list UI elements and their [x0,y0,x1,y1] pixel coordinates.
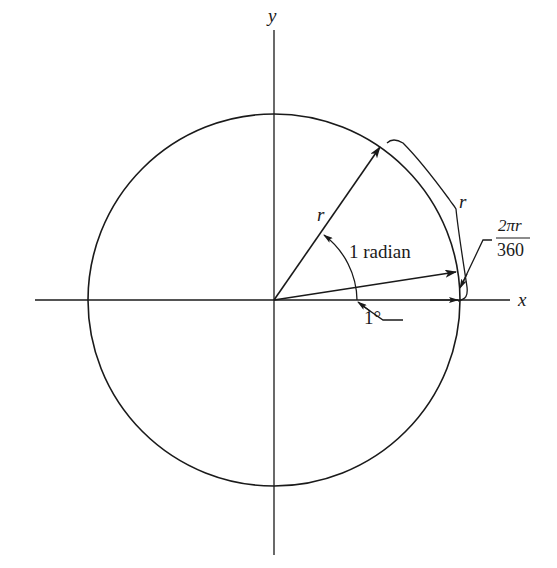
radius-vector-1-radian [274,147,380,300]
x-axis-label: x [517,289,527,310]
radian-diagram: y x r 1 radian 1° r 2πr 360 [0,0,557,568]
degree-angle-label: 1° [364,307,381,328]
small-arc-pointer [463,240,492,282]
radian-angle-label: 1 radian [349,241,411,262]
radius-vector-1-degree [274,272,456,300]
small-arc-numerator: 2πr [498,216,522,235]
small-arc-denominator: 360 [497,240,524,260]
y-axis-label: y [266,5,277,26]
radius-label: r [317,204,325,225]
arc-length-label: r [459,191,467,212]
